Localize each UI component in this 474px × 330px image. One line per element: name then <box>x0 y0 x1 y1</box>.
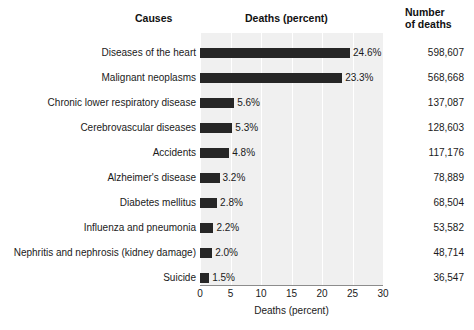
category-label: Alzheimer's disease <box>0 168 196 188</box>
bar <box>200 198 217 208</box>
number-of-deaths-value: 68,504 <box>392 193 464 213</box>
bar-row: Suicide1.5%36,547 <box>0 268 474 288</box>
bar <box>200 148 229 158</box>
category-label: Malignant neoplasms <box>0 68 196 88</box>
x-axis-tick-label: 10 <box>255 288 266 299</box>
column-header-number-of-deaths: Number of deaths <box>405 6 452 30</box>
bar <box>200 273 209 283</box>
bar-value-label: 4.8% <box>232 143 255 163</box>
number-of-deaths-value: 598,607 <box>392 43 464 63</box>
bar-row: Nephritis and nephrosis (kidney damage)2… <box>0 243 474 263</box>
bar-value-label: 5.6% <box>237 93 260 113</box>
category-label: Diseases of the heart <box>0 43 196 63</box>
bar-value-label: 3.2% <box>223 168 246 188</box>
bar <box>200 48 350 58</box>
bar <box>200 173 220 183</box>
x-axis-tick-label: 15 <box>286 288 297 299</box>
column-header-number-line2: of deaths <box>405 18 452 30</box>
category-label: Cerebrovascular diseases <box>0 118 196 138</box>
x-axis-title: Deaths (percent) <box>200 305 383 316</box>
x-axis-tick-label: 30 <box>377 288 388 299</box>
category-label: Suicide <box>0 268 196 288</box>
bar-row: Accidents4.8%117,176 <box>0 143 474 163</box>
category-label: Accidents <box>0 143 196 163</box>
category-label: Nephritis and nephrosis (kidney damage) <box>0 243 196 263</box>
x-axis-tick-label: 25 <box>347 288 358 299</box>
bar-row: Malignant neoplasms23.3%568,668 <box>0 68 474 88</box>
bar-row: Influenza and pneumonia2.2%53,582 <box>0 218 474 238</box>
bar <box>200 123 232 133</box>
bar <box>200 73 342 83</box>
number-of-deaths-value: 128,603 <box>392 118 464 138</box>
category-label: Influenza and pneumonia <box>0 218 196 238</box>
x-axis-tick-label: 0 <box>197 288 203 299</box>
category-label: Diabetes mellitus <box>0 193 196 213</box>
bar-row: Diabetes mellitus2.8%68,504 <box>0 193 474 213</box>
bar-value-label: 23.3% <box>345 68 373 88</box>
number-of-deaths-value: 53,582 <box>392 218 464 238</box>
column-header-number-line1: Number <box>405 6 452 18</box>
number-of-deaths-value: 137,087 <box>392 93 464 113</box>
bar <box>200 223 213 233</box>
number-of-deaths-value: 48,714 <box>392 243 464 263</box>
bar-row: Diseases of the heart24.6%598,607 <box>0 43 474 63</box>
category-label: Chronic lower respiratory disease <box>0 93 196 113</box>
number-of-deaths-value: 568,668 <box>392 68 464 88</box>
column-header-deaths-percent: Deaths (percent) <box>245 12 328 24</box>
bar-value-label: 2.0% <box>215 243 238 263</box>
x-axis-tick-label: 20 <box>316 288 327 299</box>
number-of-deaths-value: 36,547 <box>392 268 464 288</box>
bar <box>200 248 212 258</box>
bar-value-label: 1.5% <box>212 268 235 288</box>
bar-value-label: 24.6% <box>353 43 381 63</box>
bar-row: Alzheimer's disease3.2%78,889 <box>0 168 474 188</box>
column-header-causes: Causes <box>135 12 172 24</box>
bar-value-label: 2.8% <box>220 193 243 213</box>
bar-value-label: 5.3% <box>235 118 258 138</box>
bar-row: Cerebrovascular diseases5.3%128,603 <box>0 118 474 138</box>
number-of-deaths-value: 78,889 <box>392 168 464 188</box>
bar-value-label: 2.2% <box>216 218 239 238</box>
bar <box>200 98 234 108</box>
x-axis-tick-label: 5 <box>228 288 234 299</box>
number-of-deaths-value: 117,176 <box>392 143 464 163</box>
bar-row: Chronic lower respiratory disease5.6%137… <box>0 93 474 113</box>
